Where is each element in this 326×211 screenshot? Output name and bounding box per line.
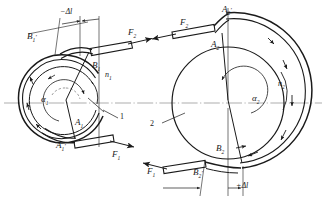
left-label-F1-sub: 1 [118,155,121,161]
right-label-B2: B2 [216,144,224,155]
right-radius-line-A2 [222,33,228,100]
left-label-B1-prime-mark: ′ [35,33,37,41]
left-label-n1: n1 [105,71,112,81]
left-callout-number: 1 [120,113,124,121]
left-outer-band [19,55,103,143]
right-callout-number: 2 [150,120,154,128]
left-callout-leader [88,98,118,118]
right-assembly [143,8,312,196]
right-label-alpha2: α2 [252,94,259,105]
left-label-A1: A1 [75,118,83,129]
right-label-A2-sub: 2 [217,45,220,51]
left-label-A1-sub: 1 [81,123,84,129]
left-bottom-lever-bar [74,135,114,148]
left-label-B1-sub: 1 [98,66,101,72]
left-radius-line-B1 [66,52,89,100]
left-label-A1-prime-mark: ′ [64,142,66,150]
right-label-F2: F2 [180,18,188,29]
left-force-F2-arrow [128,39,152,45]
right-top-lever-bar [172,25,215,39]
left-drum-circle [29,67,96,135]
left-label-alpha1-sub: 1 [46,100,49,106]
right-radius-line-B2 [228,100,242,163]
left-label-F1: F1 [112,150,120,161]
right-label-F1-sub: 1 [153,172,156,178]
right-label-B2-sub: 2 [222,149,225,155]
right-band-tail-bottom [205,162,241,173]
figure-canvas: −Δl B1′ B1 n1 α1 A1 A1′ F2 F1 1 A2′ A2 F… [0,0,326,211]
right-label-F1: F1 [147,167,155,178]
left-label-alpha1: α1 [41,95,48,106]
right-label-A2-prime-mark: ′ [230,6,232,14]
left-angle-arc-alpha1 [43,80,84,121]
left-rotation-arrow-n1 [92,82,98,104]
left-label-A1-prime: A1′ [56,141,66,152]
left-label-n1-sub: 1 [109,75,112,81]
left-dimension-lines [28,16,99,147]
left-label-B1-prime: B1′ [27,32,37,43]
right-label-B2-prime-mark: ′ [201,169,203,177]
right-label-A2-prime: A2′ [222,5,232,16]
right-label-n2: n2 [278,80,285,90]
right-label-n2-sub: 2 [282,84,285,90]
left-label-F2-sub: 2 [134,33,137,39]
left-top-lever-bar [90,42,133,56]
left-label-delta-l: −Δl [60,8,72,16]
right-outer-band [226,13,312,168]
diagram-svg [0,0,326,211]
right-label-alpha2-sub: 2 [257,99,260,105]
right-label-B2-prime: B2′ [193,168,203,179]
left-label-B1: B1 [92,61,100,72]
left-label-F2: F2 [128,28,136,39]
right-label-F2-sub: 2 [186,23,189,29]
right-band-tail-top [214,14,229,33]
left-radius-line-A1 [66,100,75,139]
left-hub-arc [52,88,80,99]
left-force-F1-arrow [110,141,134,147]
right-label-delta-l: +Δl [236,182,248,190]
right-label-A2: A2 [211,40,219,51]
left-band-inner-edge [23,60,99,139]
